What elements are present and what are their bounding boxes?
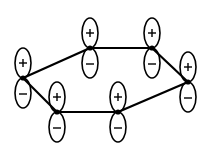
atom-node	[20, 75, 25, 80]
atom-node	[54, 109, 59, 114]
orbital-lobe-bottom	[82, 48, 98, 78]
bond-line	[118, 82, 188, 112]
orbital-diagram	[0, 0, 208, 158]
atom-node	[149, 45, 154, 50]
orbital-lobe-bottom	[49, 112, 65, 142]
orbital-lobe-bottom	[110, 112, 126, 142]
atom-node	[185, 79, 190, 84]
atom-node	[115, 109, 120, 114]
bond-line	[23, 48, 90, 78]
atom-node	[87, 45, 92, 50]
orbital-lobe-bottom	[180, 82, 196, 112]
